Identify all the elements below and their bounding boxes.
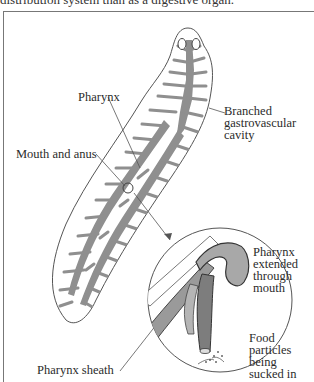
eyespot-right xyxy=(192,39,200,50)
eyespot-left xyxy=(178,39,186,50)
label-gastrovascular-cavity: Branched gastrovascular cavity xyxy=(224,105,296,141)
label-food-particles: Food particles being sucked in xyxy=(249,332,297,380)
label-pharynx-extended: Pharynx extended through mouth xyxy=(253,246,298,294)
label-mouth-and-anus: Mouth and anus xyxy=(16,148,97,160)
label-pharynx-sheath: Pharynx sheath xyxy=(37,364,114,376)
label-pharynx: Pharynx xyxy=(78,91,120,103)
